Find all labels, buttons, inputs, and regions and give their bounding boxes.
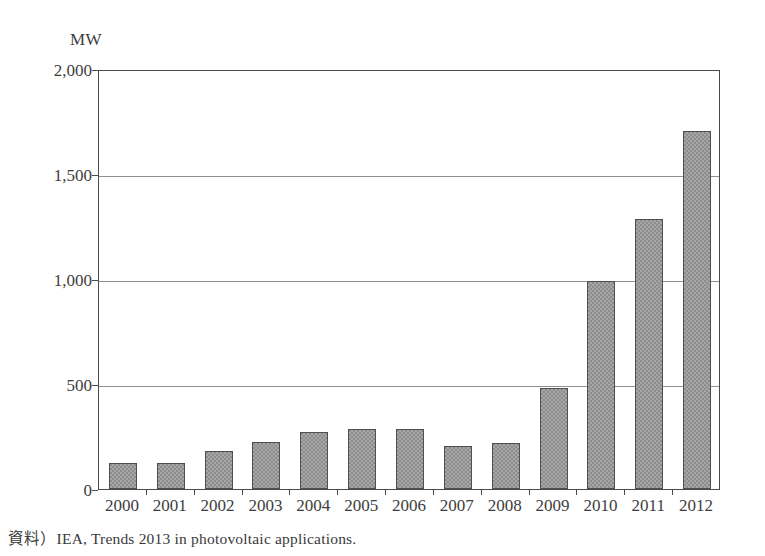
x-axis-tick-mark <box>672 490 673 495</box>
x-axis-tick-label: 2011 <box>632 497 665 514</box>
bar[interactable] <box>396 429 424 489</box>
source-note: 資料）IEA, Trends 2013 in photovoltaic appl… <box>8 529 356 549</box>
bar[interactable] <box>252 442 280 489</box>
x-axis-tick-label: 2008 <box>488 497 522 514</box>
bar-slot <box>482 71 530 489</box>
bar[interactable] <box>635 219 663 489</box>
bar[interactable] <box>492 443 520 489</box>
x-axis-tick-mark <box>576 490 577 495</box>
bar[interactable] <box>348 429 376 489</box>
bar-slot <box>290 71 338 489</box>
bar-slot <box>530 71 578 489</box>
x-axis-tick-label: 2006 <box>392 497 426 514</box>
bar-slot <box>243 71 291 489</box>
y-axis-tick-label: 500 <box>6 377 92 394</box>
bar[interactable] <box>157 463 185 489</box>
plot-area <box>98 70 720 490</box>
bar[interactable] <box>540 388 568 489</box>
x-axis-tick-mark <box>385 490 386 495</box>
x-axis-tick-label: 2007 <box>440 497 474 514</box>
x-axis-tick-label: 2010 <box>583 497 617 514</box>
y-axis-tick-label: 1,500 <box>6 167 92 184</box>
bar-slot <box>673 71 721 489</box>
bar[interactable] <box>300 432 328 489</box>
x-axis-tick-label: 2002 <box>201 497 235 514</box>
x-axis-tick-label: 2012 <box>679 497 713 514</box>
x-axis-tick-label: 2009 <box>536 497 570 514</box>
x-axis-tick-labels: 2000200120022003200420052006200720082009… <box>98 497 720 521</box>
bar-slot <box>195 71 243 489</box>
y-axis-tick-labels: 05001,0001,5002,000 <box>0 70 92 490</box>
bar-slot <box>147 71 195 489</box>
bar-slot <box>625 71 673 489</box>
x-axis-tick-label: 2004 <box>296 497 330 514</box>
x-axis-tick-mark <box>529 490 530 495</box>
bar[interactable] <box>109 463 137 489</box>
x-axis-tick-mark <box>146 490 147 495</box>
bar-slot <box>338 71 386 489</box>
bar-slot <box>386 71 434 489</box>
bar-slot <box>577 71 625 489</box>
y-axis-tick-label: 2,000 <box>6 62 92 79</box>
x-axis-tick-mark <box>194 490 195 495</box>
x-axis-tick-label: 2001 <box>153 497 187 514</box>
x-axis-tick-mark <box>433 490 434 495</box>
bar[interactable] <box>683 131 711 489</box>
x-axis-tick-mark <box>624 490 625 495</box>
y-axis-unit-label: MW <box>70 30 102 50</box>
bar-slot <box>434 71 482 489</box>
x-axis-tick-mark <box>481 490 482 495</box>
bar[interactable] <box>205 451 233 489</box>
y-axis-tick-label: 1,000 <box>6 272 92 289</box>
bar-slot <box>99 71 147 489</box>
bar[interactable] <box>587 281 615 489</box>
y-axis-tick-label: 0 <box>6 482 92 499</box>
bar[interactable] <box>444 446 472 489</box>
x-axis-tick-label: 2000 <box>105 497 139 514</box>
x-axis-tick-mark <box>289 490 290 495</box>
bars-layer <box>99 71 719 489</box>
chart-figure: MW 05001,0001,5002,000 20002001200220032… <box>0 0 765 556</box>
x-axis-tick-label: 2005 <box>344 497 378 514</box>
x-axis-tick-label: 2003 <box>248 497 282 514</box>
x-axis-tick-mark <box>242 490 243 495</box>
x-axis-tick-mark <box>337 490 338 495</box>
